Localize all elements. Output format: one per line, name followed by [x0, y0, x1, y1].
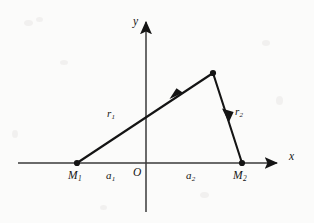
point-m1-label: M1 — [68, 170, 82, 182]
distance-a1-label: a1 — [106, 170, 115, 183]
point-m2-label-subscript: 2 — [243, 174, 247, 183]
distance-a1-label-text: a — [106, 169, 112, 181]
distance-a2-label-text: a — [186, 169, 192, 181]
vector-r1-label: r1 — [107, 108, 115, 121]
scan-speck — [24, 20, 33, 26]
distance-a2-label-subscript: 2 — [192, 175, 196, 183]
point-apex-marker — [210, 70, 216, 76]
x-axis-label: x — [289, 151, 294, 163]
point-m1-label-subscript: 1 — [78, 174, 82, 183]
distance-a2-label: a2 — [186, 170, 195, 183]
vector-r1-label-subscript: 1 — [112, 113, 116, 121]
vector-r2-label-subscript: 2 — [240, 111, 244, 119]
distance-a1-label-subscript: 1 — [112, 175, 116, 183]
scan-speck — [100, 205, 107, 210]
diagram-canvas — [0, 0, 314, 223]
vector-r2-label-text: r — [235, 105, 239, 117]
vector-r2-arrowhead — [222, 109, 234, 123]
scan-speck — [200, 192, 209, 198]
scan-speck — [60, 60, 68, 65]
origin-label: O — [133, 167, 141, 179]
vector-r1-label-text: r — [107, 107, 111, 119]
point-m2-label: M2 — [233, 170, 247, 182]
scan-speck — [262, 40, 270, 46]
point-m1-marker — [74, 160, 80, 166]
point-m1-label-text: M — [68, 169, 78, 181]
vector-r2-label: r2 — [235, 106, 243, 119]
scan-speck — [12, 130, 18, 138]
scan-speck — [36, 17, 43, 22]
point-m2-marker — [239, 160, 245, 166]
y-axis-label: y — [133, 16, 138, 28]
scan-speck — [276, 96, 283, 105]
vector-r1-line — [77, 73, 213, 163]
geometry-figure: y x O M1 M2 r1 r2 a1 a2 — [0, 0, 314, 223]
point-m2-label-text: M — [233, 169, 243, 181]
